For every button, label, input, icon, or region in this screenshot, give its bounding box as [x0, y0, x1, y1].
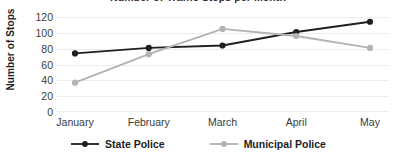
plot-area: [57, 17, 388, 112]
legend-label: Municipal Police: [244, 138, 326, 150]
x-tick-label: February: [128, 116, 170, 128]
data-point[interactable]: [219, 42, 225, 48]
data-point[interactable]: [219, 26, 225, 32]
legend-marker-icon: [70, 139, 100, 149]
series-lines: [57, 17, 388, 112]
chart-title: Number of Traffic Stops per Month: [0, 0, 396, 3]
y-tick-label: 80: [19, 43, 53, 55]
y-tick-label: 20: [19, 90, 53, 102]
data-point[interactable]: [72, 50, 78, 56]
series-line: [75, 29, 370, 83]
y-tick-label: 40: [19, 74, 53, 86]
y-tick-label: 60: [19, 59, 53, 71]
x-tick-label: May: [360, 116, 380, 128]
x-tick-label: January: [56, 116, 93, 128]
y-axis-title: Number of Stops: [5, 0, 16, 102]
legend-item-municipal-police[interactable]: Municipal Police: [209, 138, 326, 150]
x-tick-label: March: [208, 116, 237, 128]
legend-label: State Police: [105, 138, 165, 150]
legend-item-state-police[interactable]: State Police: [70, 138, 165, 150]
data-point[interactable]: [367, 45, 373, 51]
y-tick-label: 0: [19, 106, 53, 118]
y-tick-label: 100: [19, 27, 53, 39]
data-point[interactable]: [146, 45, 152, 51]
y-tick-label: 120: [19, 11, 53, 23]
y-axis-tick-labels: 120 100 80 60 40 20 0: [15, 17, 53, 112]
data-point[interactable]: [367, 19, 373, 25]
data-point[interactable]: [72, 80, 78, 86]
data-point[interactable]: [146, 51, 152, 57]
data-point[interactable]: [293, 33, 299, 39]
x-tick-label: April: [286, 116, 307, 128]
chart-legend: State Police Municipal Police: [0, 138, 396, 150]
legend-marker-icon: [209, 139, 239, 149]
line-chart: Number of Traffic Stops per Month Number…: [0, 0, 396, 158]
